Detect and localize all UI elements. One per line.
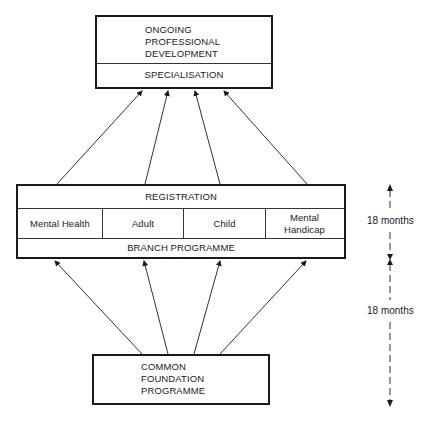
registration-branch-box: REGISTRATION Mental Health Adult Child M…: [16, 184, 346, 259]
duration-label-branch: 18 months: [366, 215, 415, 226]
cfp-title-line-1: COMMON: [141, 361, 261, 373]
cfp-title: COMMON FOUNDATION PROGRAMME: [141, 361, 261, 397]
branch-adult-label: Adult: [132, 218, 154, 230]
branch-child-label: Child: [213, 218, 235, 230]
opd-title: ONGOING PROFESSIONAL DEVELOPMENT: [145, 24, 265, 60]
registration-label: REGISTRATION: [18, 191, 344, 203]
opd-title-line-3: DEVELOPMENT: [145, 48, 265, 60]
branch-mental-handicap: Mental Handicap: [266, 209, 343, 238]
branch-adult: Adult: [103, 209, 183, 238]
arrows-middle-to-top: [57, 91, 307, 184]
opd-title-line-1: ONGOING: [145, 24, 265, 36]
cfp-title-line-3: PROGRAMME: [141, 385, 261, 397]
branch-mental-health: Mental Health: [18, 209, 102, 238]
branch-mental-health-label: Mental Health: [30, 218, 90, 230]
duration-label-foundation: 18 months: [366, 305, 415, 316]
ongoing-professional-development-box: ONGOING PROFESSIONAL DEVELOPMENT SPECIAL…: [95, 15, 273, 89]
branch-programme-label: BRANCH PROGRAMME: [18, 242, 344, 254]
arrows-bottom-to-middle: [55, 261, 306, 354]
branch-mental-handicap-line-1: Mental: [290, 212, 319, 224]
cfp-title-line-2: FOUNDATION: [141, 373, 261, 385]
branch-mental-handicap-line-2: Handicap: [284, 224, 325, 236]
specialisation-label: SPECIALISATION: [97, 69, 271, 81]
opd-divider: [97, 63, 271, 64]
common-foundation-programme-box: COMMON FOUNDATION PROGRAMME: [92, 354, 270, 405]
branch-child: Child: [184, 209, 265, 238]
branch-footer-divider: [18, 238, 344, 239]
opd-title-line-2: PROFESSIONAL: [145, 36, 265, 48]
